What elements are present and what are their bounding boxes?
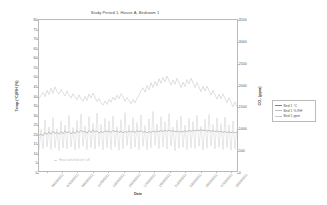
plot-annotation: Heat switched on / off [59,158,90,162]
x-tick-label: 11/03/2011 [97,173,110,188]
legend-color-swatch [275,110,282,111]
x-axis-tick-labels: 05/03/201107/03/201109/03/201111/03/2011… [0,173,327,203]
secondary-y-tick-mark [237,107,239,108]
x-tick-label: 27/03/2011 [220,173,234,188]
y-tick-mark [37,125,39,126]
secondary-y-tick-mark [237,86,239,87]
y-tick-mark [37,116,39,117]
x-tick-label: 19/03/2011 [158,173,172,188]
secondary-y-tick-label: 1000 [239,127,247,131]
annotation-marker [54,160,57,161]
plot-area: 0510152025303540455055606570758005001000… [38,19,238,172]
y-tick-mark [37,77,39,78]
x-tick-label: 07/03/2011 [66,173,80,188]
y-tick-mark [37,87,39,88]
series-line [39,76,237,107]
legend-color-swatch [275,105,282,106]
secondary-y-tick-label: 2000 [239,84,247,88]
y-tick-mark [37,20,39,21]
y-tick-mark [37,58,39,59]
x-tick-label: 09/03/2011 [81,173,95,188]
x-tick-label: 17/03/2011 [143,173,157,188]
y-tick-mark [37,154,39,155]
legend-label: Bed 1 °C [284,104,298,108]
legend-label: Bed 1 % RH [284,109,303,113]
legend-label: Bed 1 ppm [284,114,300,118]
y-tick-mark [37,39,39,40]
y-tick-mark [37,97,39,98]
secondary-y-tick-label: 500 [239,149,245,153]
chart-legend: Bed 1 °CBed 1 % RHBed 1 ppm [272,100,316,122]
secondary-y-tick-mark [237,129,239,130]
x-tick-label: 05/03/2011 [50,173,64,188]
secondary-y-tick-mark [237,42,239,43]
plot-lines [39,20,237,171]
secondary-y-tick-label: 3000 [239,40,247,44]
legend-color-swatch [275,116,282,117]
chart-figure: Study Period 1, House A, Bedroom 1 Temp … [0,0,327,205]
y-tick-mark [37,30,39,31]
secondary-y-tick-label: 2500 [239,62,247,66]
x-tick-label: 21/03/2011 [174,173,188,188]
y-tick-mark [37,163,39,164]
secondary-y-tick-label: 1500 [239,105,247,109]
y-tick-mark [37,106,39,107]
x-tick-label: 13/03/2011 [112,173,126,188]
secondary-y-tick-mark [237,64,239,65]
secondary-y-tick-label: 3500 [239,18,247,22]
x-tick-label: 23/03/2011 [189,173,203,188]
secondary-y-tick-mark [237,20,239,21]
y-axis-title: Temp (°C)/RH (%) [13,19,21,172]
y-tick-mark [37,144,39,145]
chart-title: Study Period 1, House A, Bedroom 1 [0,10,250,15]
y-tick-mark [37,49,39,50]
secondary-y-tick-mark [237,151,239,152]
secondary-y-axis-title: CO₂ (ppm) [256,19,264,172]
x-tick-label: 15/03/2011 [127,173,141,188]
y-tick-mark [37,68,39,69]
x-tick-label: 25/03/2011 [204,173,218,188]
x-tick-label: 29/03/2011 [235,173,249,188]
legend-item[interactable]: Bed 1 ppm [275,113,313,118]
y-tick-mark [37,135,39,136]
